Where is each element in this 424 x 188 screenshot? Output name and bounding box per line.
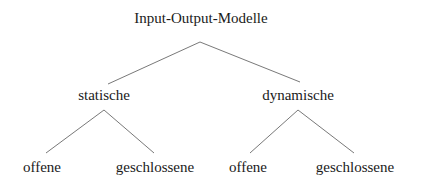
node-dynamische: dynamische [262, 86, 334, 104]
edge-dynamische-geschlossene [298, 110, 354, 153]
node-statische: statische [78, 86, 130, 104]
root-node: Input-Output-Modelle [134, 9, 267, 27]
edge-dynamische-offene [250, 110, 298, 153]
node-dynamische-offene: offene [229, 158, 267, 176]
edge-statische-geschlossene [104, 110, 154, 153]
edge-root-dynamische [200, 42, 300, 82]
node-dynamische-geschlossene: geschlossene [316, 158, 394, 176]
edge-root-statische [108, 42, 200, 84]
node-statische-offene: offene [23, 158, 61, 176]
edge-statische-offene [46, 110, 104, 153]
node-statische-geschlossene: geschlossene [116, 158, 194, 176]
